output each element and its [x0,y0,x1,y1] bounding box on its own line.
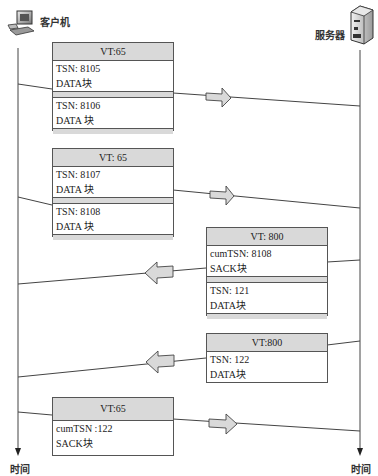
client-label: 客户机 [40,14,70,29]
chunk-type: DATA块 [53,76,173,91]
message-line-5b [173,419,360,431]
chunk-cumtsn: cumTSN :122 [53,421,173,436]
packet-header: VT:65 [53,398,173,421]
chunk-tsn: TSN: 8105 [53,61,173,76]
packet-1: VT:65 TSN: 8105 DATA块 TSN: 8106 DATA 块 [52,42,174,131]
time-label-client: 时间 [10,461,30,476]
packet-header: VT: 800 [207,228,327,246]
chunk-type: SACK块 [207,261,327,276]
chunk-tsn: TSN: 121 [207,283,327,298]
chunk-type: DATA 块 [53,219,173,234]
message-line-3 [18,268,206,284]
message-line-1b [173,93,360,106]
chunk-separator [207,313,327,319]
server-timeline [357,50,363,456]
arrow-right-icon [206,88,231,107]
chunk-separator [53,91,173,98]
arrow-right-icon [210,186,234,205]
chunk-type: DATA 块 [53,182,173,197]
packet-5: VT:65 cumTSN :122 SACK块 [52,397,174,456]
packet-header: VT: 65 [53,149,173,167]
arrow-left-icon [145,262,173,284]
chunk-cumtsn: cumTSN: 8108 [207,246,327,261]
chunk-type: DATA块 [207,298,327,313]
message-line-5 [18,412,52,415]
packet-2: VT: 65 TSN: 8107 DATA 块 TSN: 8108 DATA 块 [52,148,174,237]
message-line-2b [173,190,360,208]
chunk-separator [53,197,173,204]
arrow-right-icon [209,414,237,434]
message-line-4b [327,341,360,345]
message-line-3b [327,260,360,262]
message-line-2 [18,197,52,205]
packet-3: VT: 800 cumTSN: 8108 SACK块 TSN: 121 DATA… [206,227,328,316]
computer-icon [8,11,34,35]
packet-header: VT:65 [53,43,173,61]
packet-header: VT:800 [207,334,327,352]
client-timeline [15,48,21,456]
chunk-separator [53,128,173,134]
chunk-tsn: TSN: 8108 [53,204,173,219]
chunk-type: DATA 块 [53,113,173,128]
time-label-server: 时间 [351,461,371,476]
chunk-tsn: TSN: 8107 [53,167,173,182]
chunk-tsn: TSN: 122 [207,352,327,367]
server-icon [351,6,373,44]
message-line-4 [18,358,206,377]
chunk-type: SACK块 [53,436,173,451]
packet-4: VT:800 TSN: 122 DATA块 [206,333,328,383]
server-label: 服务器 [315,27,345,42]
chunk-separator [53,234,173,240]
chunk-separator [207,276,327,283]
chunk-tsn: TSN: 8106 [53,98,173,113]
arrow-left-icon [146,351,174,373]
chunk-type: DATA块 [207,367,327,382]
message-line-1 [18,84,52,89]
